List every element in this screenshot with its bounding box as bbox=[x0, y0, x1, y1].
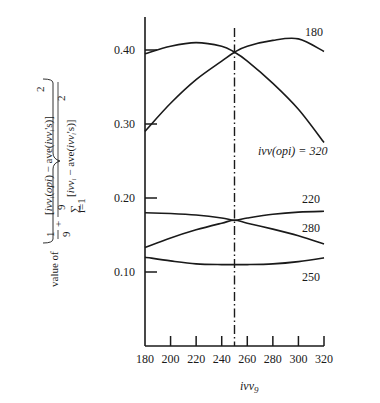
y-tick-label: 0.20 bbox=[114, 191, 135, 205]
y-ticks: 0.100.200.300.40 bbox=[114, 43, 157, 279]
svg-text:2: 2 bbox=[55, 96, 67, 102]
y-tick-label: 0.10 bbox=[114, 265, 135, 279]
y-tick-label: 0.30 bbox=[114, 117, 135, 131]
svg-text:9: 9 bbox=[55, 204, 67, 210]
y-numerator: [ivvi(opi) − ave(ivvi's)] bbox=[42, 116, 56, 215]
svg-text:9: 9 bbox=[60, 231, 72, 237]
svg-text:2: 2 bbox=[34, 87, 46, 93]
svg-text:i=1: i=1 bbox=[75, 198, 87, 213]
y-denominator: [ivvi − ave(ivvi's)] bbox=[64, 120, 78, 197]
y-tick-label: 0.40 bbox=[114, 43, 135, 57]
svg-text:value of: value of bbox=[48, 251, 60, 287]
curve-label-180: 180 bbox=[305, 25, 323, 39]
x-axis-label: ivv9 bbox=[240, 379, 259, 395]
x-tick-label: 240 bbox=[213, 352, 231, 366]
x-ticks: 180200220240260280300320 bbox=[136, 336, 333, 366]
svg-text:1: 1 bbox=[44, 232, 56, 238]
x-tick-label: 320 bbox=[315, 352, 333, 366]
curve-label-250: 250 bbox=[302, 270, 320, 284]
x-tick-label: 180 bbox=[136, 352, 154, 366]
x-tick-label: 260 bbox=[238, 352, 256, 366]
chart: 0.100.200.300.40 18020022024026028030032… bbox=[0, 0, 380, 403]
y-axis-label: value of 1 9 + [ivvi(opi) − ave(ivvi's)]… bbox=[34, 79, 87, 287]
x-tick-label: 200 bbox=[162, 352, 180, 366]
curve-label-320: ivv(opi) = 320 bbox=[258, 144, 327, 158]
curve-label-220: 220 bbox=[302, 192, 320, 206]
x-tick-label: 300 bbox=[289, 352, 307, 366]
svg-text:+: + bbox=[52, 221, 64, 227]
x-tick-label: 280 bbox=[264, 352, 282, 366]
x-tick-label: 220 bbox=[187, 352, 205, 366]
curve-label-280: 280 bbox=[302, 221, 320, 235]
